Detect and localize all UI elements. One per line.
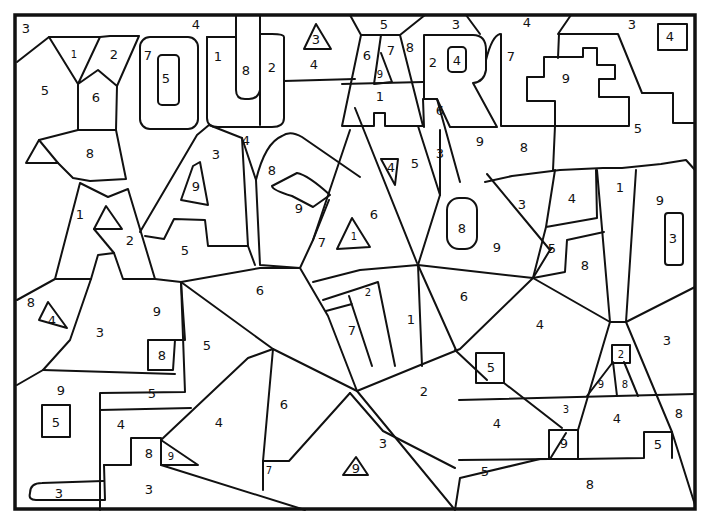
region-number: 3 [452, 17, 460, 32]
region-number: 2 [110, 47, 118, 62]
region-number: 2 [126, 233, 134, 248]
region-number: 2 [429, 55, 437, 70]
region-number: 5 [481, 464, 489, 479]
region-number: 4 [453, 53, 461, 68]
region-number: 9 [562, 71, 570, 86]
region-number: 4 [242, 133, 250, 148]
region-number: 7 [387, 43, 395, 58]
region-number: 9 [57, 383, 65, 398]
region-number: 3 [436, 146, 444, 161]
region-number: 4 [215, 415, 223, 430]
region-number: 8 [675, 406, 683, 421]
region-number: 1 [214, 49, 222, 64]
region-number: 4 [536, 317, 544, 332]
region-number: 6 [256, 283, 264, 298]
region-number: 3 [663, 333, 671, 348]
region-number: 6 [363, 48, 371, 63]
region-number: 9 [476, 134, 484, 149]
region-number: 8 [586, 477, 594, 492]
region-numbers: 3453434312751824678924795616543988845393… [22, 15, 683, 501]
region-number: 6 [92, 90, 100, 105]
region-number: 3 [518, 197, 526, 212]
region-number: 4 [192, 17, 200, 32]
region-number: 2 [268, 60, 276, 75]
region-number: 9 [192, 179, 200, 194]
region-number: 9 [560, 436, 568, 451]
region-number: 2 [365, 287, 371, 298]
region-number: 8 [86, 146, 94, 161]
region-number: 5 [411, 156, 419, 171]
region-number: 8 [145, 446, 153, 461]
region-number: 3 [22, 21, 30, 36]
region-number: 3 [212, 147, 220, 162]
region-number: 5 [162, 71, 170, 86]
region-number: 8 [520, 140, 528, 155]
region-number: 1 [407, 312, 415, 327]
outline-drawing [17, 15, 695, 510]
region-number: 8 [406, 40, 414, 55]
region-number: 3 [379, 436, 387, 451]
region-number: 5 [654, 437, 662, 452]
region-number: 7 [144, 48, 152, 63]
region-number: 9 [295, 201, 303, 216]
region-number: 9 [352, 461, 360, 476]
region-number: 9 [598, 379, 604, 390]
region-number: 8 [458, 221, 466, 236]
region-number: 8 [27, 295, 35, 310]
region-number: 8 [158, 348, 166, 363]
region-number: 1 [376, 89, 384, 104]
region-number: 4 [387, 160, 395, 175]
region-number: 8 [242, 63, 250, 78]
region-number: 8 [581, 258, 589, 273]
region-number: 3 [669, 231, 677, 246]
region-number: 3 [628, 17, 636, 32]
region-number: 9 [153, 304, 161, 319]
region-number: 1 [76, 207, 84, 222]
region-number: 9 [493, 240, 501, 255]
region-number: 1 [351, 231, 357, 242]
region-number: 5 [634, 121, 642, 136]
region-number: 2 [618, 349, 624, 360]
region-number: 3 [96, 325, 104, 340]
region-number: 4 [117, 417, 125, 432]
region-number: 5 [487, 360, 495, 375]
region-number: 6 [460, 289, 468, 304]
region-number: 1 [616, 180, 624, 195]
region-number: 5 [41, 83, 49, 98]
region-number: 8 [268, 163, 276, 178]
region-number: 9 [377, 69, 383, 80]
region-number: 6 [370, 207, 378, 222]
region-number: 4 [523, 15, 531, 30]
region-number: 3 [55, 486, 63, 501]
region-number: 9 [168, 451, 174, 462]
region-number: 3 [145, 482, 153, 497]
region-number: 2 [420, 384, 428, 399]
region-number: 9 [656, 193, 664, 208]
region-number: 1 [71, 49, 77, 60]
region-number: 4 [493, 416, 501, 431]
region-number: 7 [266, 465, 272, 476]
region-number: 4 [310, 57, 318, 72]
region-number: 5 [380, 17, 388, 32]
region-number: 6 [436, 103, 444, 118]
region-number: 5 [148, 386, 156, 401]
region-number: 4 [613, 411, 621, 426]
region-number: 3 [563, 404, 569, 415]
region-number: 7 [507, 49, 515, 64]
region-number: 6 [280, 397, 288, 412]
region-number: 5 [181, 243, 189, 258]
region-number: 4 [666, 29, 674, 44]
region-number: 4 [48, 313, 56, 328]
coloring-page: 3453434312751824678924795616543988845393… [0, 0, 713, 523]
region-number: 3 [312, 32, 320, 47]
region-number: 5 [548, 241, 556, 256]
region-number: 8 [622, 379, 628, 390]
region-number: 4 [568, 191, 576, 206]
region-number: 5 [52, 415, 60, 430]
region-number: 5 [203, 338, 211, 353]
region-number: 7 [348, 323, 356, 338]
region-number: 7 [318, 235, 326, 250]
